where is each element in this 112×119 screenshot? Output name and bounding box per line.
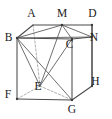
vertex-dot-b	[16, 37, 18, 39]
hidden-edge-eg	[40, 86, 72, 100]
vertex-label-n: N	[90, 31, 99, 43]
vertex-labels-group: AMDBCNEFGH	[5, 7, 100, 115]
cube-edge-gh	[72, 86, 92, 100]
geometry-figure: AMDBCNEFGH	[0, 0, 112, 119]
cube-diagram-svg: AMDBCNEFGH	[0, 0, 112, 119]
hidden-edges-group	[17, 25, 72, 100]
hidden-edge-ae	[33, 25, 40, 86]
vertex-dot-m	[61, 24, 63, 26]
vertex-dot-d	[91, 24, 93, 26]
vertex-dot-f	[16, 98, 18, 100]
construction-line-bg	[17, 38, 72, 100]
construction-line-be	[17, 38, 40, 86]
cube-edge-bc	[17, 38, 72, 39]
vertex-label-g: G	[68, 103, 76, 115]
vertex-label-d: D	[88, 7, 96, 19]
vertex-label-h: H	[91, 75, 99, 87]
vertex-label-m: M	[57, 7, 67, 19]
vertex-label-e: E	[34, 80, 41, 92]
cube-edge-fg	[17, 99, 72, 100]
vertex-dot-g	[71, 99, 73, 101]
vertex-label-b: B	[5, 31, 13, 43]
construction-edges-group	[17, 25, 92, 100]
cube-edges-group	[17, 25, 92, 100]
construction-line-bm	[17, 25, 62, 38]
vertex-dots-group	[16, 24, 93, 101]
vertex-label-c: C	[66, 38, 74, 50]
vertex-label-a: A	[27, 7, 36, 19]
vertex-label-f: F	[5, 88, 11, 100]
